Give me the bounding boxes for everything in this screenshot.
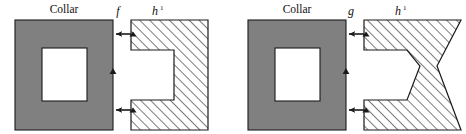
part-label-superscript-left: 1	[160, 4, 164, 12]
collar-hole-left	[42, 48, 87, 101]
diagram-canvas: Collar f h 1 Collar g h 1	[0, 0, 466, 134]
part-label-h-left: h	[152, 4, 158, 18]
part-label-h-right: h	[395, 4, 401, 18]
map-label-g: g	[348, 4, 354, 18]
collar-label-right: Collar	[283, 3, 312, 15]
collar-label-left: Collar	[50, 3, 79, 15]
collar-hole-right	[275, 48, 320, 101]
figure-container: Collar f h 1 Collar g h 1	[0, 0, 466, 134]
left-panel: Collar f h 1	[15, 3, 208, 130]
part-label-superscript-right: 1	[403, 4, 407, 12]
